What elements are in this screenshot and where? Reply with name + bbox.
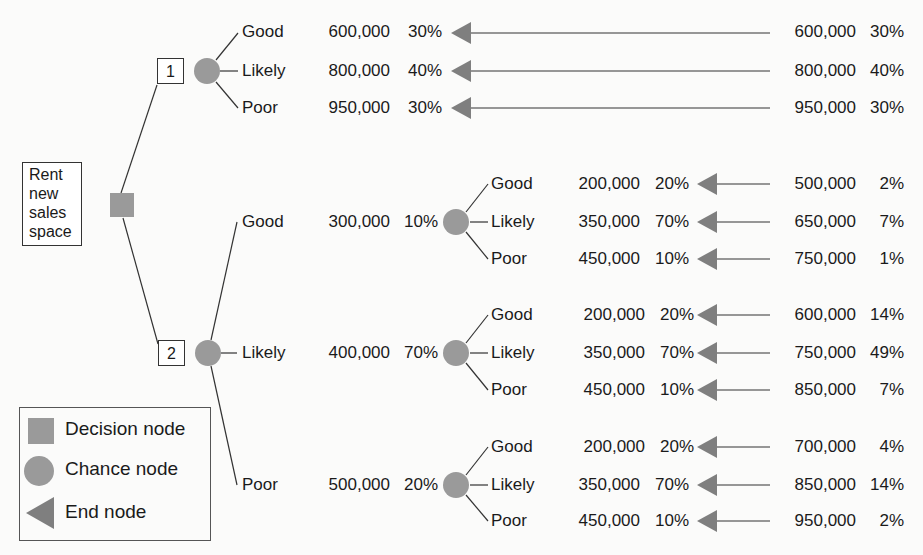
sub-value: 350,000 [550,475,640,495]
outcome-value: 600,000 [300,22,390,42]
sub-label: Good [491,437,533,457]
outcome-label: Poor [242,475,278,495]
outcome-label: Good [242,22,284,42]
outcome-value: 400,000 [300,343,390,363]
sub-value: 350,000 [555,343,645,363]
end-node-icon [697,342,717,364]
sub-label: Likely [491,212,534,232]
end-prob: 2% [860,511,904,531]
outcome-value: 300,000 [300,212,390,232]
root-label-line: Rent [29,165,81,184]
end-value: 950,000 [770,511,856,531]
end-prob: 14% [860,475,904,495]
sub-label: Likely [491,343,534,363]
end-prob: 4% [860,437,904,457]
sub-value: 200,000 [550,174,640,194]
chance-node-icon [443,340,469,366]
end-prob: 30% [860,22,904,42]
sub-value: 450,000 [555,380,645,400]
end-node-icon [451,60,471,82]
end-value: 800,000 [770,61,856,81]
end-node-icon [24,496,64,532]
sub-prob: 70% [645,212,689,232]
end-prob: 40% [860,61,904,81]
legend: Decision node Chance node End node [19,407,211,541]
sub-value: 350,000 [550,212,640,232]
outcome-prob: 30% [400,98,442,118]
sub-value: 200,000 [555,305,645,325]
legend-label: End node [65,501,146,523]
sub-prob: 70% [650,343,694,363]
end-node-icon [697,304,717,326]
sub-label: Good [491,305,533,325]
outcome-prob: 70% [396,343,438,363]
outcome-prob: 20% [396,475,438,495]
sub-prob: 10% [645,249,689,269]
outcome-value: 500,000 [300,475,390,495]
sub-value: 450,000 [550,249,640,269]
end-prob: 30% [860,98,904,118]
end-prob: 1% [860,249,904,269]
end-value: 700,000 [770,437,856,457]
end-prob: 7% [860,212,904,232]
sub-value: 450,000 [550,511,640,531]
sub-label: Likely [491,475,534,495]
decision-node-icon [24,414,64,448]
outcome-label: Likely [242,61,285,81]
outcome-label: Likely [242,343,285,363]
option-2-box: 2 [158,340,185,366]
chance-node-icon [443,209,469,235]
end-value: 850,000 [770,475,856,495]
outcome-prob: 40% [400,61,442,81]
decision-node-icon [110,193,134,217]
legend-item-chance: Chance node [20,454,210,494]
sub-prob: 20% [650,437,694,457]
chance-node-icon [22,454,62,488]
root-label-line: new [29,184,81,203]
end-prob: 2% [860,174,904,194]
root-decision-label: Rent new sales space [22,162,82,246]
legend-item-end: End node [20,496,210,536]
end-node-icon [697,510,717,532]
end-node-icon [697,173,717,195]
sub-prob: 10% [650,380,694,400]
end-node-icon [451,22,471,44]
end-node-icon [697,474,717,496]
end-value: 650,000 [770,212,856,232]
root-label-line: sales [29,203,81,222]
legend-label: Decision node [65,418,185,440]
chance-node-icon [443,472,469,498]
outcome-prob: 30% [400,22,442,42]
sub-label: Poor [491,249,527,269]
sub-prob: 70% [645,475,689,495]
end-value: 750,000 [770,249,856,269]
end-value: 750,000 [770,343,856,363]
outcome-value: 800,000 [300,61,390,81]
end-value: 600,000 [770,22,856,42]
legend-label: Chance node [65,458,178,480]
end-prob: 49% [860,343,904,363]
sub-label: Poor [491,511,527,531]
option-1-box: 1 [157,58,184,84]
end-node-icon [697,436,717,458]
sub-label: Poor [491,380,527,400]
legend-item-decision: Decision node [20,412,210,452]
sub-prob: 10% [645,511,689,531]
end-value: 950,000 [770,98,856,118]
outcome-prob: 10% [396,212,438,232]
chance-node-icon [195,340,221,366]
end-prob: 14% [860,305,904,325]
end-value: 500,000 [770,174,856,194]
outcome-value: 950,000 [300,98,390,118]
sub-value: 200,000 [555,437,645,457]
sub-prob: 20% [645,174,689,194]
chance-node-icon [194,58,220,84]
end-node-icon [451,97,471,119]
end-node-icon [697,379,717,401]
sub-prob: 20% [650,305,694,325]
outcome-label: Poor [242,98,278,118]
end-prob: 7% [860,380,904,400]
end-node-icon [697,248,717,270]
root-label-line: space [29,222,81,241]
end-value: 600,000 [770,305,856,325]
